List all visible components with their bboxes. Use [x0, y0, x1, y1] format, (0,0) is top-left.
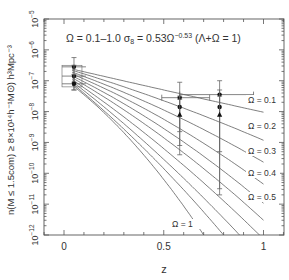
- y-tick-label: 10−8: [28, 102, 40, 120]
- curve-label: Ω = 1: [172, 219, 193, 229]
- y-tick-label: 10−12: [28, 224, 40, 245]
- curve-label: Ω = 0.3: [248, 146, 276, 156]
- x-tick-label: 1: [261, 241, 267, 252]
- y-axis-label: n(M ≤ 1.5com) ≥ 8×10¹⁴h⁻¹M⊙) h³Mpc⁻³: [5, 45, 16, 215]
- model-curve: [72, 83, 228, 240]
- x-tick-label: 0: [61, 241, 67, 252]
- model-curve: [72, 70, 264, 140]
- model-curve: [72, 85, 208, 241]
- curve-label: Ω = 0.4: [248, 168, 276, 178]
- curve-label: Ω = 0.1: [248, 95, 276, 105]
- x-tick-label: 0.5: [157, 241, 171, 252]
- chart-title: Ω = 0.1–1.0 σ8 = 0.53Ω−0.53 (Λ+Ω = 1): [66, 32, 241, 45]
- y-tick-label: 10−10: [28, 162, 40, 183]
- circle-marker: [72, 82, 76, 86]
- curve-label: Ω = 0.2: [248, 121, 276, 131]
- model-curves: [62, 65, 263, 241]
- y-tick-label: 10−6: [28, 41, 40, 59]
- y-tick-labels: 10−510−610−710−810−910−1010−1110−12: [28, 10, 40, 246]
- y-tick-label: 10−7: [28, 72, 40, 90]
- triangle-marker: [217, 112, 222, 117]
- curve-label: Ω = 0.5: [248, 192, 276, 202]
- x-axis-label: z: [161, 263, 167, 275]
- chart: 10−510−610−710−810−910−1010−1110−12 00.5…: [0, 0, 289, 280]
- x-tick-labels: 00.51: [61, 241, 267, 252]
- model-curve: [72, 80, 264, 239]
- model-curve: [72, 78, 264, 221]
- y-tick-label: 10−9: [28, 133, 40, 151]
- chart-svg: 10−510−610−710−810−910−1010−1110−12 00.5…: [0, 0, 289, 280]
- triangle-marker: [177, 112, 182, 117]
- observed-data-points: [62, 58, 254, 195]
- y-tick-label: 10−11: [28, 193, 40, 214]
- model-curve: [72, 72, 264, 162]
- y-tick-label: 10−5: [28, 10, 40, 28]
